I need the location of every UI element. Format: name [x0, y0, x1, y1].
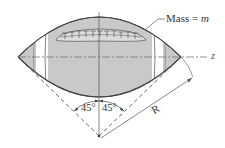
- mass-label-text: Mass =: [166, 12, 201, 24]
- z-axis-label: z: [211, 51, 215, 61]
- football-body: [18, 0, 181, 148]
- pivot-point: [98, 135, 101, 138]
- angle-label-left: 45°: [81, 103, 96, 114]
- mass-symbol: m: [201, 12, 209, 24]
- angle-label-right: 45°: [102, 103, 117, 114]
- mass-leader-line: [145, 19, 165, 30]
- mass-label: Mass = m: [166, 13, 209, 24]
